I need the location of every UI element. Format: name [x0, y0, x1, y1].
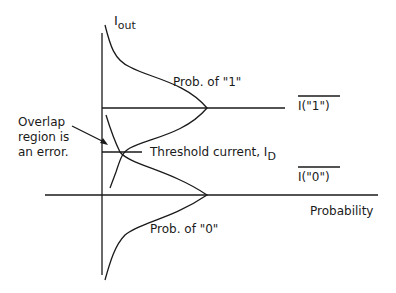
overlap-note-line-3: an error.	[18, 145, 69, 160]
x-axis-label: Probability	[310, 204, 373, 218]
level-zero-label: I("0")	[298, 170, 330, 184]
y-axis-label-sub: out	[118, 19, 136, 32]
overlap-note-line-2: region is	[18, 130, 69, 145]
threshold-label: Threshold current, ID	[150, 145, 276, 160]
curve-zero-label: Prob. of "0"	[150, 222, 218, 236]
overlap-pointer	[72, 126, 106, 143]
curve-prob-one	[105, 25, 207, 188]
curve-one-label: Prob. of "1"	[173, 75, 241, 89]
threshold-label-main: Threshold current, I	[150, 145, 267, 159]
curve-prob-zero	[105, 115, 207, 280]
threshold-label-sub: D	[267, 150, 275, 163]
overlap-note: Overlap region is an error.	[18, 115, 69, 160]
y-axis-label: Iout	[114, 14, 136, 29]
overlap-pointer-arrowhead	[100, 138, 108, 145]
overlap-note-line-1: Overlap	[18, 115, 69, 130]
level-one-label: I("1")	[298, 99, 330, 113]
